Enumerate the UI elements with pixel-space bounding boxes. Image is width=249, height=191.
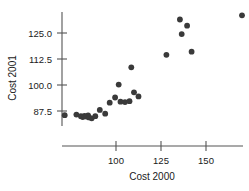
y-tick-label: 125.0 [28,28,52,39]
data-point [239,12,245,18]
y-tick-label: 87.5 [34,106,53,117]
data-point [107,100,113,106]
data-point [97,107,103,113]
data-point [164,52,170,58]
data-point [112,95,118,101]
scatter-plot-figure: 87.5100.0112.5125.0 Cost 2001 100125150 … [0,0,249,191]
y-tick-label-group: 87.5100.0112.5125.0 [28,28,52,117]
data-point [92,113,98,119]
data-point-group [62,12,245,121]
data-point [136,94,142,100]
y-tick-label: 100.0 [28,80,52,91]
data-point [179,31,185,37]
x-tick-label-group: 100125150 [108,155,214,166]
y-tick-label: 112.5 [29,54,52,65]
x-axis-title: Cost 2000 [129,171,175,182]
data-point [189,49,195,55]
data-point [128,64,134,70]
plot-canvas: 87.5100.0112.5125.0 Cost 2001 100125150 … [0,0,249,191]
data-point [131,89,137,95]
data-point [102,111,108,117]
y-axis-title: Cost 2001 [7,55,18,101]
x-tick-label: 125 [153,155,169,166]
x-axis: 100125150 Cost 2000 [62,141,243,182]
data-point [116,82,122,88]
data-point [184,23,190,29]
data-point [62,112,68,118]
data-point [127,98,133,104]
x-tick-label: 150 [198,155,214,166]
y-axis: 87.5100.0112.5125.0 Cost 2001 [7,12,67,126]
x-tick-label: 100 [108,155,124,166]
data-point [177,17,183,23]
